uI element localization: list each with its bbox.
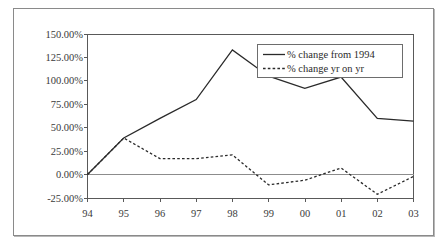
x-tick-label: 00 (300, 208, 311, 219)
x-tick-label: 03 (408, 208, 419, 219)
y-tick-label: 0.00% (56, 169, 83, 180)
chart-frame: 150.00% 125.00% 100.00% 75.00% 50.00% 25… (13, 8, 434, 236)
y-tick-label: -25.00% (47, 193, 83, 204)
y-tick-label: 100.00% (45, 75, 83, 86)
chart-legend: % change from 1994 % change yr on yr (258, 45, 403, 78)
x-tick-label: 97 (191, 208, 202, 219)
x-tick-label: 01 (336, 208, 347, 219)
y-tick-label: 125.00% (45, 52, 83, 63)
x-axis-tick-labels: 94 95 96 97 98 99 00 01 02 03 (82, 208, 419, 219)
y-tick-label: 25.00% (51, 146, 84, 157)
x-tick-label: 98 (227, 208, 238, 219)
chart-plot-area: 150.00% 125.00% 100.00% 75.00% 50.00% 25… (14, 9, 435, 237)
x-tick-label: 96 (155, 208, 166, 219)
y-axis (84, 34, 88, 198)
x-axis (88, 198, 415, 202)
legend-label-0: % change from 1994 (287, 49, 376, 60)
x-tick-label: 95 (119, 208, 130, 219)
series-line-change-yr-on-yr (88, 138, 414, 194)
legend-label-1: % change yr on yr (287, 63, 364, 74)
x-tick-label: 02 (372, 208, 383, 219)
y-tick-label: 75.00% (51, 99, 84, 110)
y-axis-tick-labels: 150.00% 125.00% 100.00% 75.00% 50.00% 25… (45, 29, 83, 204)
line-chart: 150.00% 125.00% 100.00% 75.00% 50.00% 25… (14, 9, 435, 237)
x-tick-label: 99 (264, 208, 275, 219)
screenshot-root: 150.00% 125.00% 100.00% 75.00% 50.00% 25… (0, 0, 448, 248)
y-tick-label: 50.00% (51, 122, 84, 133)
y-tick-label: 150.00% (45, 29, 83, 40)
x-tick-label: 94 (82, 208, 93, 219)
